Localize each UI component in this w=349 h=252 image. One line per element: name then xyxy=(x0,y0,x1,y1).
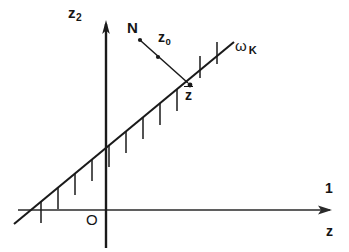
omega-k-hatching-lower xyxy=(41,89,177,223)
omega-k-hatching-upper xyxy=(200,42,217,78)
z2-axis-group xyxy=(102,20,110,248)
normal-origin-label: N xyxy=(127,20,138,35)
z1-axis-label: z xyxy=(326,224,333,238)
z-bar-label: z xyxy=(185,88,192,102)
z0-normal-label: z0 xyxy=(158,30,171,46)
origin-label: O xyxy=(86,212,98,227)
z1-axis-superscript-label: 1 xyxy=(325,181,333,195)
figure-canvas: z2 N z0 ωK z O 1 z xyxy=(0,0,349,252)
z2-axis-label: z2 xyxy=(68,5,82,23)
omega-k-line xyxy=(14,42,234,224)
diagram-svg xyxy=(0,0,349,252)
z1-axis-group xyxy=(18,206,332,215)
omega-k-label: ωK xyxy=(235,38,257,56)
z0-start-dot xyxy=(138,38,142,42)
z0-mid-dot xyxy=(156,55,160,59)
z0-normal-line xyxy=(141,41,188,83)
omega-k-line-group xyxy=(14,42,234,224)
